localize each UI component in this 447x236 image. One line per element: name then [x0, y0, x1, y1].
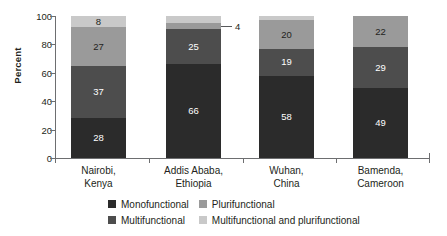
x-axis-tick-mark [149, 158, 150, 163]
bar-segment-value: 25 [188, 42, 199, 52]
legend-item[interactable]: Multifunctional and plurifunctional [199, 212, 360, 228]
bar-segment[interactable] [166, 23, 221, 29]
legend-item-label: Multifunctional and plurifunctional [212, 215, 360, 226]
legend-swatch-icon [108, 216, 116, 224]
bar-segment[interactable]: 37 [71, 66, 126, 119]
y-axis-tick-mark [50, 73, 55, 74]
bar-segment-value: 28 [93, 133, 104, 143]
bar-segment[interactable]: 19 [259, 49, 314, 76]
legend-swatch-icon [108, 200, 116, 208]
bar-segment[interactable]: 27 [71, 27, 126, 65]
x-axis-category-label: Wuhan,China [239, 164, 334, 190]
bar-segment-value: 66 [188, 106, 199, 116]
y-axis-tick-mark [50, 44, 55, 45]
bar-segment[interactable]: 22 [353, 16, 408, 47]
x-axis-category-label: Nairobi,Kenya [51, 164, 146, 190]
category-label-line: Nairobi, [51, 164, 146, 177]
bar-segment[interactable] [166, 16, 221, 23]
bar-segment-value: 22 [375, 27, 386, 37]
bar-segment-value: 8 [96, 17, 101, 27]
bar-column[interactable]: 2837278 [71, 16, 126, 158]
legend-item-label: Monofunctional [121, 199, 189, 210]
category-label-line: Bamenda, [333, 164, 428, 177]
bar-segment[interactable] [259, 16, 314, 20]
x-axis-tick-mark [243, 158, 244, 163]
y-axis-tick-mark [50, 101, 55, 102]
chart-legend: MonofunctionalPlurifunctionalMultifuncti… [108, 196, 360, 228]
x-axis-tick-mark [429, 158, 430, 163]
x-axis-tick-mark [336, 158, 337, 163]
bar-column[interactable]: 6625 [166, 16, 221, 158]
annotation-value-label: 4 [235, 20, 240, 31]
category-label-line: Kenya [51, 177, 146, 190]
legend-swatch-icon [199, 216, 207, 224]
bar-segment-value: 58 [281, 112, 292, 122]
bar-segment-value: 19 [281, 57, 292, 67]
stacked-bar-chart: Percent 020406080100 2837278Nairobi,Keny… [0, 0, 447, 236]
category-label-line: Wuhan, [239, 164, 334, 177]
bar-segment-value: 49 [375, 118, 386, 128]
legend-item[interactable]: Multifunctional [108, 212, 189, 228]
bar-segment[interactable]: 66 [166, 64, 221, 158]
legend-item[interactable]: Monofunctional [108, 196, 189, 212]
y-axis-tick-mark [50, 130, 55, 131]
bar-segment-value: 29 [375, 63, 386, 73]
bar-segment[interactable]: 28 [71, 118, 126, 158]
legend-item-label: Plurifunctional [212, 199, 275, 210]
x-axis-category-label: Bamenda,Cameroon [333, 164, 428, 190]
legend-item-label: Multifunctional [121, 215, 185, 226]
category-label-line: Addis Ababa, [146, 164, 241, 177]
x-axis-category-label: Addis Ababa,Ethiopia [146, 164, 241, 190]
bar-segment[interactable]: 58 [259, 76, 314, 158]
y-axis-tick-mark [50, 16, 55, 17]
bar-segment[interactable]: 20 [259, 20, 314, 48]
bar-segment[interactable]: 8 [71, 16, 126, 27]
bar-segment-value: 27 [93, 42, 104, 52]
bar-segment-value: 20 [281, 30, 292, 40]
category-label-line: Ethiopia [146, 177, 241, 190]
annotation-leader-line [221, 26, 232, 27]
legend-swatch-icon [199, 200, 207, 208]
bar-column[interactable]: 581920 [259, 16, 314, 158]
bar-column[interactable]: 492922 [353, 16, 408, 158]
bar-segment-value: 37 [93, 87, 104, 97]
category-label-line: Cameroon [333, 177, 428, 190]
legend-item[interactable]: Plurifunctional [199, 196, 360, 212]
x-axis-tick-mark [55, 158, 56, 163]
bar-segment[interactable]: 25 [166, 29, 221, 65]
bar-segment[interactable]: 49 [353, 88, 408, 158]
bar-segment[interactable]: 29 [353, 47, 408, 88]
category-label-line: China [239, 177, 334, 190]
